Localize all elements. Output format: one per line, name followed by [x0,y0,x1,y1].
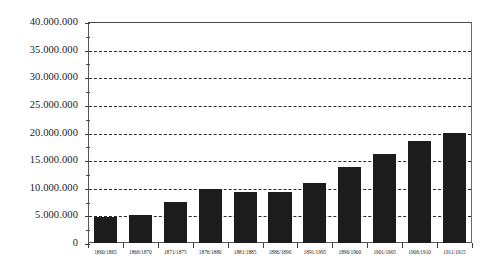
bars-container [88,22,472,243]
x-axis-tick [297,243,298,248]
y-axis-label: 10.000.000 [30,183,78,194]
x-axis-tick [472,243,473,248]
bar [373,154,396,243]
bar [443,133,466,243]
x-axis-tick [123,243,124,248]
x-axis-label: 1881/1885 [234,250,257,256]
bar [199,189,222,243]
x-axis-label: 1891/1995 [304,250,327,256]
x-axis-label: 1896/1900 [339,250,362,256]
x-axis-tick [263,243,264,248]
x-axis-tick [402,243,403,248]
bar-chart-figure: 05.000.00010.000.00015.000.00020.000.000… [0,0,486,276]
bar [164,202,187,243]
x-axis-tick [367,243,368,248]
y-axis: 05.000.00010.000.00015.000.00020.000.000… [0,0,86,276]
y-axis-label: 35.000.000 [30,44,78,55]
bar [129,215,152,243]
y-axis-label: 40.000.000 [30,17,78,28]
bar [94,217,117,243]
y-axis-label: 25.000.000 [30,100,78,111]
y-axis-label: 0 [73,238,78,249]
x-axis-label: 1901/1905 [373,250,396,256]
bar [303,183,326,243]
x-axis-tick [228,243,229,248]
x-axis-label: 1860/1865 [94,250,117,256]
x-axis: 1860/18651866/18701871/18751876/18801881… [88,250,472,264]
x-axis-label: 1871/1875 [164,250,187,256]
y-axis-label: 20.000.000 [30,127,78,138]
x-axis-label: 1886/1890 [269,250,292,256]
x-axis-tick [193,243,194,248]
y-axis-label: 30.000.000 [30,72,78,83]
bar [408,141,431,243]
x-axis-tick [158,243,159,248]
x-axis-tick [437,243,438,248]
x-axis-tick [332,243,333,248]
y-axis-label: 15.000.000 [30,155,78,166]
x-axis-label: 1906/1910 [408,250,431,256]
x-axis-tick [88,243,89,248]
bar [234,192,257,243]
x-axis-label: 1911/1915 [443,250,465,256]
x-axis-label: 1866/1870 [129,250,152,256]
bar [338,167,361,243]
x-axis-label: 1876/1880 [199,250,222,256]
y-axis-label: 5.000.000 [35,210,78,221]
bar [268,192,291,243]
